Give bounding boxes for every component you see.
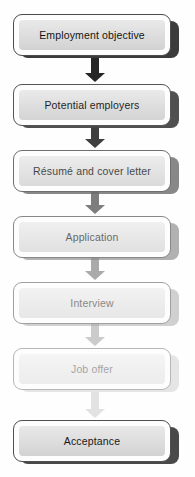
arrow-stem — [91, 58, 99, 73]
node-outline: Interview — [13, 282, 171, 324]
flow-arrow-2-to-3 — [85, 126, 105, 148]
node-body: Interview — [13, 282, 179, 326]
node-label: Acceptance — [64, 436, 120, 447]
node-outline: Application — [13, 216, 171, 258]
node-label: Job offer — [71, 364, 113, 375]
flow-arrow-6-to-7 — [85, 392, 105, 418]
node-outline: Potential employers — [13, 84, 171, 126]
flow-arrow-5-to-6 — [85, 324, 105, 346]
node-outline: Job offer — [13, 348, 171, 390]
arrow-head — [85, 409, 105, 418]
node-outline: Acceptance — [13, 420, 171, 462]
node-body: Résumé and cover letter — [13, 150, 179, 194]
flowchart-canvas: Employment objectivePotential employersR… — [0, 0, 195, 477]
arrow-head — [85, 271, 105, 280]
node-label: Application — [65, 232, 118, 243]
node-body: Potential employers — [13, 84, 179, 128]
node-label: Employment objective — [39, 30, 145, 41]
arrow-head — [85, 205, 105, 214]
node-label: Résumé and cover letter — [33, 166, 151, 177]
arrow-head — [85, 139, 105, 148]
node-panel: Interview — [19, 288, 165, 318]
flow-arrow-3-to-4 — [85, 192, 105, 214]
node-body: Employment objective — [13, 14, 179, 58]
job-search-flowchart-figure: Employment objectivePotential employersR… — [0, 0, 195, 477]
flow-arrow-1-to-2 — [85, 58, 105, 82]
node-panel: Job offer — [19, 354, 165, 384]
node-outline: Résumé and cover letter — [13, 150, 171, 192]
node-panel: Résumé and cover letter — [19, 156, 165, 186]
node-panel: Acceptance — [19, 426, 165, 456]
flow-arrow-4-to-5 — [85, 258, 105, 280]
node-body: Acceptance — [13, 420, 179, 464]
arrow-head — [85, 73, 105, 82]
arrow-head — [85, 337, 105, 346]
node-panel: Application — [19, 222, 165, 252]
node-outline: Employment objective — [13, 14, 171, 56]
node-label: Potential employers — [44, 100, 139, 111]
node-body: Job offer — [13, 348, 179, 392]
node-panel: Employment objective — [19, 20, 165, 50]
node-body: Application — [13, 216, 179, 260]
arrow-stem — [91, 392, 99, 409]
node-label: Interview — [70, 298, 113, 309]
node-panel: Potential employers — [19, 90, 165, 120]
